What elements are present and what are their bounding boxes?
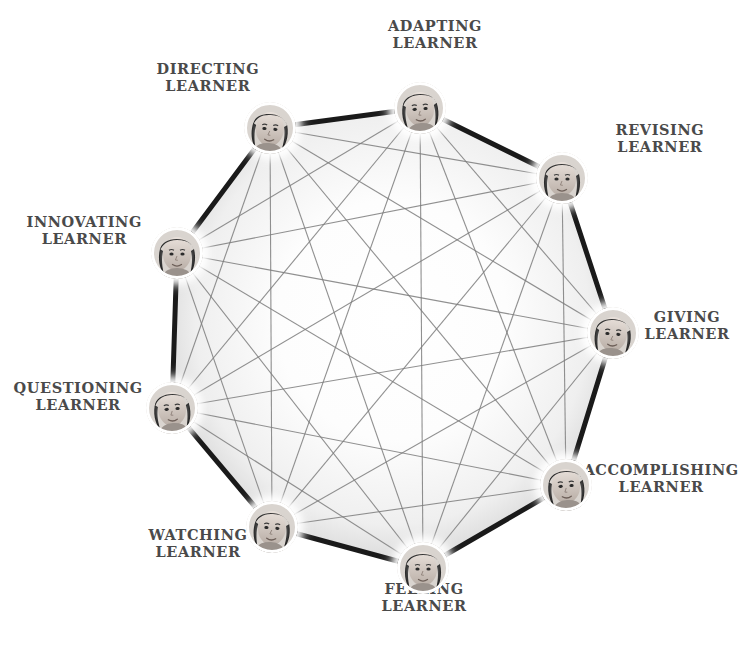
- learner-portrait: [394, 82, 446, 134]
- learner-portrait: [397, 542, 449, 594]
- label-giving-line2: LEARNER: [645, 325, 730, 343]
- label-questioning: QUESTIONINGLEARNER: [14, 379, 143, 414]
- label-accomplishing-line1: ACCOMPLISHING: [584, 461, 739, 479]
- label-revising-line2: LEARNER: [616, 138, 705, 156]
- label-watching-line2: LEARNER: [149, 543, 248, 561]
- label-revising-line1: REVISING: [616, 121, 705, 139]
- label-innovating-line2: LEARNER: [27, 230, 142, 248]
- portrait-innovating[interactable]: [151, 227, 203, 279]
- portrait-feeling[interactable]: [397, 542, 449, 594]
- learner-portrait: [244, 102, 296, 154]
- portrait-watching[interactable]: [246, 501, 298, 553]
- nonagon-graph: [0, 0, 754, 663]
- label-directing: DIRECTINGLEARNER: [157, 60, 260, 95]
- label-watching-line1: WATCHING: [149, 526, 248, 544]
- learner-wheel-diagram: ADAPTINGLEARNERREVISINGLEARNERGIVINGLEAR…: [0, 0, 754, 663]
- label-giving-line1: GIVING: [645, 308, 730, 326]
- label-directing-line2: LEARNER: [157, 77, 260, 95]
- label-innovating-line1: INNOVATING: [27, 213, 142, 231]
- label-innovating: INNOVATINGLEARNER: [27, 213, 142, 248]
- label-questioning-line1: QUESTIONING: [14, 379, 143, 397]
- label-adapting-line2: LEARNER: [388, 34, 482, 52]
- portrait-adapting[interactable]: [394, 82, 446, 134]
- learner-portrait: [246, 501, 298, 553]
- learner-portrait: [536, 152, 588, 204]
- label-adapting: ADAPTINGLEARNER: [388, 17, 482, 52]
- label-accomplishing-line2: LEARNER: [584, 478, 739, 496]
- learner-portrait: [587, 307, 639, 359]
- portrait-revising[interactable]: [536, 152, 588, 204]
- portrait-questioning[interactable]: [146, 382, 198, 434]
- portrait-directing[interactable]: [244, 102, 296, 154]
- label-questioning-line2: LEARNER: [14, 396, 143, 414]
- learner-portrait: [146, 382, 198, 434]
- label-feeling-line2: LEARNER: [382, 597, 467, 615]
- learner-portrait: [151, 227, 203, 279]
- portrait-giving[interactable]: [587, 307, 639, 359]
- learner-portrait: [540, 459, 592, 511]
- label-adapting-line1: ADAPTING: [388, 17, 482, 35]
- portrait-accomplishing[interactable]: [540, 459, 592, 511]
- label-revising: REVISINGLEARNER: [616, 121, 705, 156]
- label-directing-line1: DIRECTING: [157, 60, 260, 78]
- label-accomplishing: ACCOMPLISHINGLEARNER: [584, 461, 739, 496]
- label-giving: GIVINGLEARNER: [645, 308, 730, 343]
- label-watching: WATCHINGLEARNER: [149, 526, 248, 561]
